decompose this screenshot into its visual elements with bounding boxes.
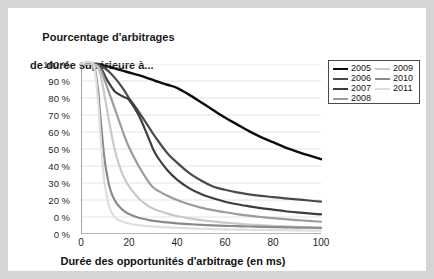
y-tick-label: 100 % [43,59,70,70]
chart-card: Pourcentage d'arbitrages de durée supéri… [8,8,426,271]
legend-line-swatch [375,78,390,80]
x-axis-title: Durée des opportunités d'arbitrage (en m… [8,255,338,267]
y-tick-label: 50 % [48,144,70,155]
legend: 2005200620072008200920102011 [328,60,420,104]
legend-line-swatch [333,78,348,80]
legend-item-2009[interactable]: 2009 [375,64,413,73]
x-tick-label: 100 [313,237,330,248]
legend-line-swatch [333,88,348,90]
y-tick-label: 40 % [48,161,70,172]
legend-item-2010[interactable]: 2010 [375,74,413,83]
y-tick-label: 30 % [48,178,70,189]
legend-columns: 2005200620072008200920102011 [333,64,416,103]
x-tick-label: 40 [171,237,182,248]
x-tick-label: 80 [267,237,278,248]
legend-item-2007[interactable]: 2007 [333,84,371,93]
legend-label: 2011 [393,84,412,93]
plot-area [73,56,321,234]
screenshot-frame: Pourcentage d'arbitrages de durée supéri… [0,0,434,279]
x-axis-tick-labels: 020406080100 [81,237,321,251]
x-tick-label: 60 [219,237,230,248]
legend-line-swatch [375,88,390,90]
legend-label: 2005 [351,64,371,73]
legend-label: 2007 [351,84,371,93]
x-tick-label: 20 [123,237,134,248]
legend-label: 2006 [351,74,371,83]
legend-label: 2010 [393,74,413,83]
y-tick-label: 60 % [48,127,70,138]
y-tick-label: 20 % [48,195,70,206]
legend-item-2011[interactable]: 2011 [375,84,413,93]
y-tick-label: 90 % [48,76,70,87]
y-tick-label: 0 % [54,212,70,223]
y-tick-label: 0 % [54,229,70,240]
axis-lines [81,64,321,234]
legend-line-swatch [333,68,348,70]
legend-item-2006[interactable]: 2006 [333,74,371,83]
legend-label: 2009 [393,64,413,73]
legend-item-2008[interactable]: 2008 [333,94,371,103]
plot-inner [81,64,321,234]
legend-column-1: 2005200620072008 [333,64,371,103]
legend-item-2005[interactable]: 2005 [333,64,371,73]
y-tick-label: 70 % [48,110,70,121]
y-axis-tick-labels: 100 %90 %80 %70 %60 %50 %40 %30 %20 %0 %… [20,64,70,234]
legend-line-swatch [333,98,348,100]
legend-column-2: 200920102011 [375,64,413,103]
chart-title-line-1: Pourcentage d'arbitrages [42,31,174,43]
y-tick-label: 80 % [48,93,70,104]
legend-line-swatch [375,68,390,70]
x-tick-label: 0 [78,237,84,248]
legend-label: 2008 [351,94,371,103]
